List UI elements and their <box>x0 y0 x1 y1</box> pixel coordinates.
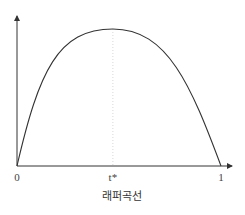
chart-caption: 래퍼곡선 <box>102 187 142 203</box>
x-tick-label-0: 0 <box>14 171 20 183</box>
laffer-curve <box>17 29 221 166</box>
x-tick-label-1: 1 <box>218 171 224 183</box>
laffer-chart <box>0 0 245 215</box>
x-tick-label-tstar: t* <box>109 171 118 183</box>
